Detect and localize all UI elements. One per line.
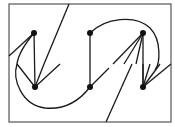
node-bottom-middle xyxy=(87,84,93,90)
node-top-left xyxy=(31,30,37,36)
node-top-right xyxy=(140,30,146,36)
node-bottom-left xyxy=(32,84,38,90)
node-top-middle xyxy=(87,30,93,36)
graph-diagram xyxy=(0,0,175,127)
node-bottom-right xyxy=(140,84,146,90)
